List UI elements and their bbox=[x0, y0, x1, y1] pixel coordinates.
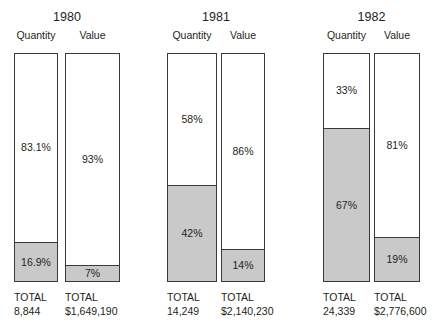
total-value: $2,140,230 bbox=[221, 305, 274, 317]
total-value: 8,844 bbox=[14, 305, 40, 317]
total-value: $2,776,600 bbox=[374, 305, 427, 317]
segment-percent-label-bottom: 42% bbox=[167, 227, 217, 239]
column-header: Quantity bbox=[323, 29, 370, 41]
segment-percent-label-top: 58% bbox=[167, 113, 217, 125]
segment-percent-label-bottom: 14% bbox=[221, 259, 265, 271]
total-value: 14,249 bbox=[167, 305, 199, 317]
segment-percent-label-top: 81% bbox=[374, 139, 420, 151]
segment-percent-label-top: 93% bbox=[65, 153, 120, 165]
total-label: TOTAL bbox=[167, 291, 200, 303]
total-label: TOTAL bbox=[221, 291, 254, 303]
column-header: Value bbox=[221, 29, 265, 41]
total-label: TOTAL bbox=[65, 291, 98, 303]
segment-percent-label-bottom: 16.9% bbox=[14, 256, 58, 268]
stacked-bar bbox=[167, 53, 217, 282]
stacked-bar bbox=[221, 53, 265, 282]
column-header: Value bbox=[374, 29, 420, 41]
stacked-bar bbox=[65, 53, 120, 282]
total-label: TOTAL bbox=[374, 291, 407, 303]
segment-percent-label-bottom: 67% bbox=[323, 199, 370, 211]
total-label: TOTAL bbox=[323, 291, 356, 303]
column-header: Quantity bbox=[167, 29, 217, 41]
year-label: 1982 bbox=[323, 10, 420, 24]
segment-percent-label-bottom: 19% bbox=[374, 253, 420, 265]
total-value: 24,339 bbox=[323, 305, 355, 317]
column-header: Value bbox=[65, 29, 120, 41]
segment-percent-label-bottom: 7% bbox=[65, 267, 120, 279]
segment-percent-label-top: 86% bbox=[221, 145, 265, 157]
year-label: 1981 bbox=[167, 10, 265, 24]
column-header: Quantity bbox=[14, 29, 58, 41]
segment-percent-label-top: 83.1% bbox=[14, 141, 58, 153]
segment-percent-label-top: 33% bbox=[323, 84, 370, 96]
year-label: 1980 bbox=[14, 10, 120, 24]
total-label: TOTAL bbox=[14, 291, 47, 303]
stacked-bar bbox=[374, 53, 420, 282]
total-value: $1,649,190 bbox=[65, 305, 118, 317]
stacked-bar bbox=[14, 53, 58, 282]
stacked-bar-chart: 1980Quantity83.1%16.9%TOTAL8,844Value93%… bbox=[0, 0, 438, 334]
